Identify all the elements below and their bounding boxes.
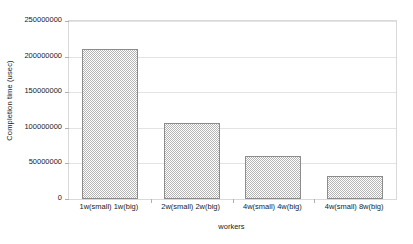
y-tick-label: 200000000 [24, 52, 62, 60]
y-tick-label: 50000000 [29, 158, 62, 166]
bar [164, 123, 220, 199]
x-tick-label: 4w(small) 4w(big) [243, 202, 302, 212]
y-tick-label: 100000000 [24, 123, 62, 131]
y-axis-tick-labels: 0500000001000000001500000002000000002500… [14, 0, 66, 205]
plot-area [68, 20, 397, 200]
bar-chart: Completion time (usec) 05000000010000000… [0, 0, 413, 244]
bar [82, 49, 138, 199]
y-tick-mark [65, 128, 69, 129]
y-tick-label: 0 [58, 194, 62, 202]
bar [245, 156, 301, 199]
x-tick-label: 4w(small) 8w(big) [325, 202, 384, 212]
y-tick-mark [65, 92, 69, 93]
y-tick-label: 150000000 [24, 87, 62, 95]
y-tick-label: 250000000 [24, 16, 62, 24]
x-axis-tick-labels: 1w(small) 1w(big)2w(small) 2w(big)4w(sma… [68, 202, 395, 216]
y-tick-mark [65, 163, 69, 164]
y-tick-mark [65, 21, 69, 22]
y-axis-title-text: Completion time (usec) [5, 60, 14, 140]
bars-group [69, 21, 396, 199]
x-tick-label: 2w(small) 2w(big) [161, 202, 220, 212]
bar [327, 176, 383, 199]
x-axis-title: workers [68, 222, 395, 231]
y-tick-mark [65, 57, 69, 58]
x-tick-label: 1w(small) 1w(big) [79, 202, 138, 212]
y-tick-mark [65, 199, 69, 200]
